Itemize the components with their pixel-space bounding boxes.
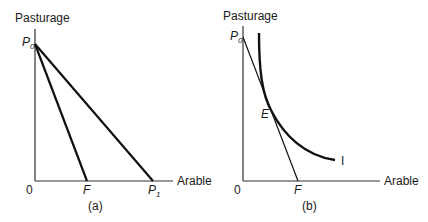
panel-a: Pasturage Arable 0 P0 F P1 (a): [15, 11, 212, 213]
line-p0-p1: [35, 44, 153, 181]
origin-label: 0: [234, 183, 241, 197]
f-label: F: [294, 183, 302, 197]
y-axis-label: Pasturage: [15, 11, 70, 25]
p1-label: P1: [148, 183, 160, 199]
caption-a: (a): [88, 199, 103, 213]
x-axis-label: Arable: [177, 174, 212, 188]
e-label: E: [261, 107, 270, 121]
p0-label: P0: [230, 29, 243, 45]
f-label: F: [83, 183, 91, 197]
p0-label: P0: [22, 35, 35, 51]
panel-b: Pasturage Arable 0 P0 E F I (b): [223, 9, 419, 213]
curve-i-label: I: [341, 154, 344, 168]
origin-label: 0: [26, 183, 33, 197]
y-axis-label: Pasturage: [223, 9, 278, 23]
line-p0-f: [35, 44, 87, 181]
x-axis-label: Arable: [384, 174, 419, 188]
indifference-curve: [259, 33, 335, 160]
diagram: Pasturage Arable 0 P0 F P1 (a) Pasturage…: [0, 0, 428, 222]
caption-b: (b): [302, 199, 317, 213]
